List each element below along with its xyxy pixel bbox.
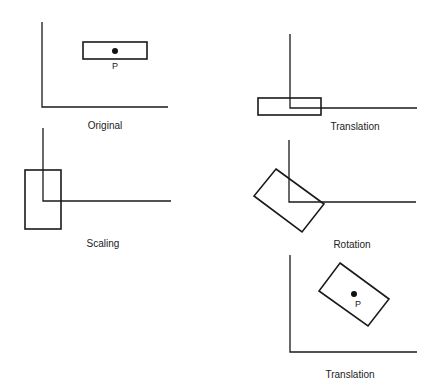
point-label: P [355, 299, 361, 309]
caption-rotation: Rotation [333, 239, 370, 250]
axes [290, 34, 417, 108]
transformation-diagram: P Original Translation Scaling Rotation … [0, 0, 434, 383]
caption-scaling: Scaling [87, 238, 120, 249]
caption-translation: Translation [330, 121, 379, 132]
caption-translation: Translation [325, 369, 374, 380]
panel-scaling: Scaling [25, 128, 171, 249]
panel-translation-1: Translation [258, 34, 417, 132]
axes [290, 255, 417, 352]
panel-original: P Original [42, 22, 168, 131]
panel-translation-2: P Translation [290, 255, 417, 380]
point-label: P [112, 61, 118, 71]
axes [42, 22, 168, 107]
caption-original: Original [88, 120, 122, 131]
panel-rotation: Rotation [254, 140, 416, 250]
reference-point [351, 291, 357, 297]
axes [43, 128, 171, 201]
reference-point [112, 48, 118, 54]
